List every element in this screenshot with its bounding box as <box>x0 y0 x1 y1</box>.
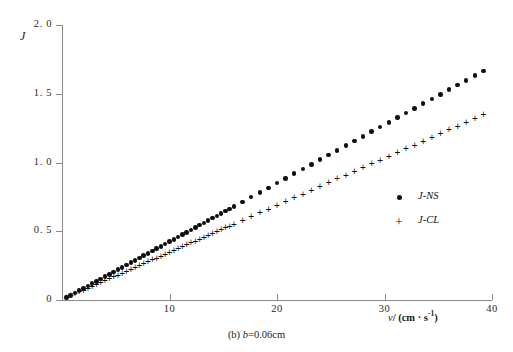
data-point-j-ns <box>137 256 142 261</box>
y-tick-mark <box>56 231 62 232</box>
data-point-j-ns <box>163 242 168 247</box>
data-point-j-ns <box>215 214 220 219</box>
data-point-j-cl: + <box>393 148 402 157</box>
data-point-j-ns <box>120 265 125 270</box>
data-point-j-cl: + <box>410 141 419 150</box>
data-point-j-ns <box>292 171 297 176</box>
data-point-j-cl: + <box>307 186 316 195</box>
data-point-j-ns <box>309 162 314 167</box>
data-point-j-cl: + <box>187 238 196 247</box>
data-point-j-ns <box>98 277 103 282</box>
data-point-j-ns <box>146 251 151 256</box>
data-point-j-ns <box>184 230 189 235</box>
data-point-j-cl: + <box>131 263 140 272</box>
data-point-j-ns <box>352 139 357 144</box>
data-point-j-ns <box>404 111 409 116</box>
data-point-j-ns <box>176 235 181 240</box>
data-point-j-ns <box>240 200 245 205</box>
data-point-j-ns <box>86 284 91 289</box>
data-point-j-cl: + <box>376 156 385 165</box>
data-point-j-cl: + <box>66 291 75 300</box>
data-point-j-ns <box>107 272 112 277</box>
figure-container: J v/ (cm · s-1) 00. 51. 01. 52. 01020304… <box>0 0 513 352</box>
data-point-j-cl: + <box>135 261 144 270</box>
data-point-j-ns <box>193 225 198 230</box>
data-point-j-ns <box>189 228 194 233</box>
data-point-j-ns <box>133 258 138 263</box>
x-tick-mark <box>170 294 171 300</box>
data-point-j-cl: + <box>101 276 110 285</box>
data-point-j-ns <box>361 134 366 139</box>
data-point-j-cl: + <box>169 246 178 255</box>
data-point-j-cl: + <box>384 152 393 161</box>
data-point-j-ns <box>167 239 172 244</box>
data-point-j-cl: + <box>247 212 256 221</box>
data-point-j-cl: + <box>316 182 325 191</box>
data-point-j-cl: + <box>139 259 148 268</box>
data-point-j-cl: + <box>479 110 488 119</box>
data-point-j-ns <box>369 129 374 134</box>
data-point-j-ns <box>335 148 340 153</box>
data-point-j-ns <box>124 263 129 268</box>
data-point-j-ns <box>473 73 478 78</box>
y-tick-label: 1. 0 <box>6 157 52 168</box>
data-point-j-cl: + <box>199 233 208 242</box>
data-point-j-ns <box>103 274 108 279</box>
data-point-j-ns <box>219 211 224 216</box>
data-point-j-ns <box>68 293 73 298</box>
data-point-j-cl: + <box>462 118 471 127</box>
data-point-j-ns <box>283 176 288 181</box>
data-point-j-ns <box>447 87 452 92</box>
data-point-j-ns <box>223 209 228 214</box>
data-point-j-ns <box>94 279 99 284</box>
data-point-j-ns <box>249 195 254 200</box>
y-axis-title: J <box>20 29 25 44</box>
y-tick-mark <box>56 94 62 95</box>
data-point-j-cl: + <box>445 125 454 134</box>
data-point-j-cl: + <box>126 265 135 274</box>
data-point-j-ns <box>464 78 469 83</box>
data-point-j-cl: + <box>122 267 131 276</box>
data-point-j-cl: + <box>144 257 153 266</box>
x-tick-mark <box>385 294 386 300</box>
data-point-j-ns <box>395 115 400 120</box>
data-point-j-ns <box>77 288 82 293</box>
data-point-j-ns <box>430 97 435 102</box>
x-tick-mark <box>492 294 493 300</box>
figure-caption: (b) b=0.06cm <box>0 329 513 340</box>
data-point-j-cl: + <box>290 193 299 202</box>
data-point-j-ns <box>258 190 263 195</box>
legend-label-j-ns: J-NS <box>418 190 438 201</box>
data-point-j-cl: + <box>264 205 273 214</box>
x-axis-title-close: ) <box>434 312 438 323</box>
data-point-j-cl: + <box>225 222 234 231</box>
data-point-j-cl: + <box>221 223 230 232</box>
data-point-j-cl: + <box>109 272 118 281</box>
y-tick-label: 0 <box>6 294 52 305</box>
data-point-j-cl: + <box>191 237 200 246</box>
plus-marker-icon: + <box>392 214 406 228</box>
data-point-j-cl: + <box>324 178 333 187</box>
data-point-j-ns <box>116 267 121 272</box>
data-point-j-ns <box>159 244 164 249</box>
data-point-j-cl: + <box>427 133 436 142</box>
y-axis-line <box>62 25 63 301</box>
y-tick-label: 0. 5 <box>6 225 52 236</box>
data-point-j-ns <box>90 281 95 286</box>
data-point-j-cl: + <box>156 252 165 261</box>
data-point-j-cl: + <box>118 269 127 278</box>
data-point-j-cl: + <box>195 235 204 244</box>
data-point-j-cl: + <box>217 225 226 234</box>
data-point-j-ns <box>154 246 159 251</box>
data-point-j-cl: + <box>83 284 92 293</box>
data-point-j-ns <box>326 153 331 158</box>
data-point-j-cl: + <box>178 242 187 251</box>
data-point-j-ns <box>81 286 86 291</box>
data-point-j-cl: + <box>453 122 462 131</box>
data-point-j-ns <box>481 69 486 74</box>
data-point-j-ns <box>378 125 383 130</box>
data-point-j-ns <box>129 260 134 265</box>
x-tick-label: 20 <box>257 303 297 314</box>
y-tick-label: 1. 5 <box>6 88 52 99</box>
data-point-j-cl: + <box>105 274 114 283</box>
